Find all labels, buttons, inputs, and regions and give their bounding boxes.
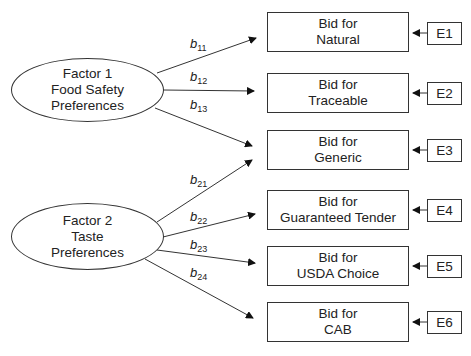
arrow-b22 [163,214,255,237]
factor-label: Preferences [51,98,124,114]
factor-2-ellipse: Factor 2 Taste Preferences [11,203,164,270]
error-e3: E3 [427,139,462,162]
factor-label: Preferences [51,245,124,261]
error-e6: E6 [427,311,462,334]
error-e5: E5 [427,255,462,278]
error-e4: E4 [427,199,462,222]
indicator-usda-choice: Bid for USDA Choice [267,246,409,286]
indicator-traceable: Bid for Traceable [267,73,409,113]
factor-label: Factor 2 [63,213,113,229]
indicator-cab: Bid for CAB [267,302,409,342]
factor-1-ellipse: Factor 1 Food Safety Preferences [11,58,164,122]
arrow-b12 [163,90,254,91]
factor-label: Taste [71,229,103,245]
indicator-guaranteed-tender: Bid for Guaranteed Tender [267,190,409,230]
factor-label: Food Safety [51,82,124,98]
path-label-b24: b24 [190,265,207,282]
factor-label: Factor 1 [63,66,113,82]
error-e2: E2 [427,82,462,105]
path-label-b22: b22 [190,209,207,226]
path-label-b11: b11 [190,36,207,53]
indicator-natural: Bid for Natural [267,12,409,52]
path-label-b13: b13 [190,97,207,114]
path-label-b23: b23 [190,237,207,254]
path-label-b21: b21 [190,172,207,189]
indicator-generic: Bid for Generic [267,130,409,170]
path-label-b12: b12 [190,69,207,86]
error-e1: E1 [427,22,462,45]
